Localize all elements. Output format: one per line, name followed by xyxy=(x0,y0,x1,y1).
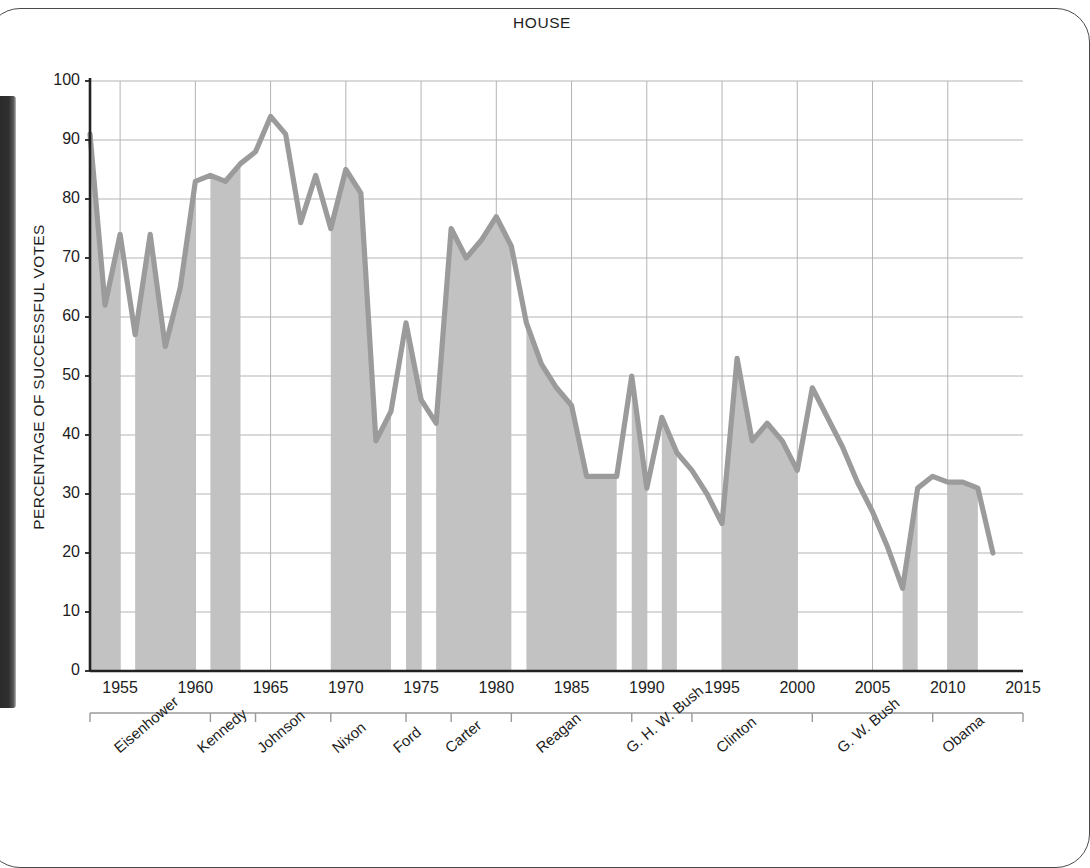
x-tick-label: 1965 xyxy=(239,679,303,697)
x-tick-label: 2010 xyxy=(916,679,980,697)
y-tick-label: 60 xyxy=(38,307,80,325)
x-tick-label: 1960 xyxy=(163,679,227,697)
x-tick-label: 2005 xyxy=(841,679,905,697)
y-tick-label: 100 xyxy=(38,71,80,89)
y-tick-label: 0 xyxy=(38,661,80,679)
y-tick-label: 50 xyxy=(38,366,80,384)
x-tick-label: 1975 xyxy=(389,679,453,697)
x-tick-label: 1985 xyxy=(540,679,604,697)
x-tick-label: 1955 xyxy=(88,679,152,697)
x-tick-label: 2015 xyxy=(991,679,1055,697)
y-tick-label: 40 xyxy=(38,425,80,443)
x-tick-label: 1980 xyxy=(464,679,528,697)
y-tick-label: 30 xyxy=(38,484,80,502)
y-tick-label: 10 xyxy=(38,602,80,620)
x-tick-label: 2000 xyxy=(765,679,829,697)
x-tick-label: 1970 xyxy=(314,679,378,697)
y-tick-label: 80 xyxy=(38,189,80,207)
x-tick-label: 1990 xyxy=(615,679,679,697)
y-tick-label: 90 xyxy=(38,130,80,148)
y-tick-label: 70 xyxy=(38,248,80,266)
y-tick-label: 20 xyxy=(38,543,80,561)
period-band xyxy=(135,81,195,671)
period-band xyxy=(436,81,511,671)
